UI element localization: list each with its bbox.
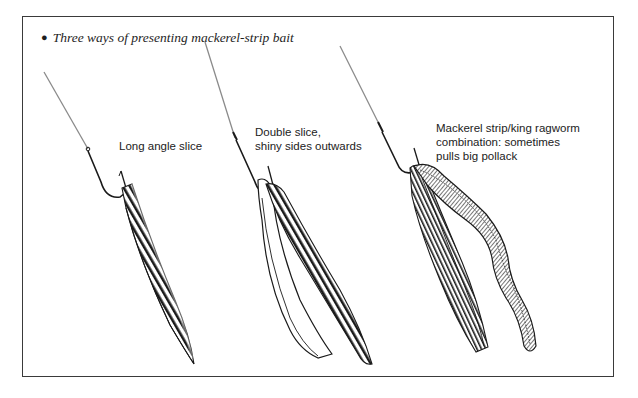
- bait-illustrations: [0, 0, 638, 398]
- hook-1-icon: [44, 72, 126, 197]
- hook-3-icon: [340, 46, 420, 173]
- bait-strip-1: [122, 184, 194, 364]
- hook-2-icon: [205, 42, 273, 193]
